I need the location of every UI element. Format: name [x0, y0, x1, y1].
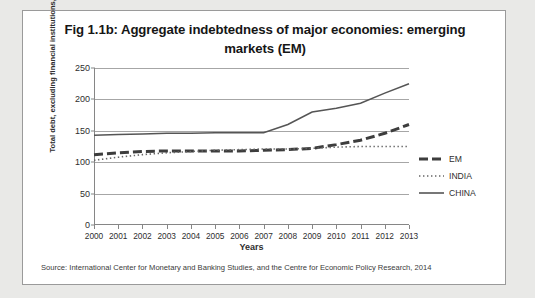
chart-title: Fig 1.1b: Aggregate indebtedness of majo…	[63, 20, 467, 58]
legend-item-china[interactable]: CHINA	[419, 184, 499, 201]
legend-swatch-icon	[419, 154, 444, 164]
y-axis-tick-label: 200	[60, 94, 90, 104]
y-axis-tick-label: 250	[60, 63, 90, 73]
legend-label: INDIA	[449, 171, 472, 181]
series-line-india	[94, 147, 409, 161]
source-note: Source: International Center for Monetar…	[41, 263, 496, 272]
x-axis-tick	[239, 225, 240, 229]
x-axis-tick	[385, 225, 386, 229]
y-axis-tick-label: 100	[60, 157, 90, 167]
series-layer	[94, 68, 409, 225]
x-axis-tick	[191, 225, 192, 229]
x-axis-tick	[94, 225, 95, 229]
y-axis-tick-label: 0	[60, 220, 90, 230]
y-axis-tick-label: 50	[60, 189, 90, 199]
series-line-em	[94, 125, 409, 155]
y-axis-tick-label: 150	[60, 126, 90, 136]
x-axis-tick	[361, 225, 362, 229]
x-axis-tick	[215, 225, 216, 229]
figure-container: Fig 1.1b: Aggregate indebtedness of majo…	[22, 10, 506, 285]
x-axis-tick	[167, 225, 168, 229]
x-axis-tick-label: 2013	[392, 231, 426, 241]
legend-label: EM	[449, 154, 462, 164]
legend-swatch-icon	[419, 171, 444, 181]
x-axis-tick	[312, 225, 313, 229]
x-axis-tick	[336, 225, 337, 229]
x-axis-tick	[264, 225, 265, 229]
legend-swatch-icon	[419, 188, 444, 198]
chart-legend: EMINDIACHINA	[419, 150, 499, 201]
legend-item-india[interactable]: INDIA	[419, 167, 499, 184]
x-axis-tick	[409, 225, 410, 229]
x-axis-title: Years	[94, 242, 409, 252]
y-axis-tick-labels: 050100150200250	[56, 68, 90, 225]
x-axis-tick	[142, 225, 143, 229]
x-axis-tick	[288, 225, 289, 229]
legend-item-em[interactable]: EM	[419, 150, 499, 167]
legend-label: CHINA	[449, 188, 476, 198]
series-line-china	[94, 84, 409, 136]
x-axis-tick	[118, 225, 119, 229]
